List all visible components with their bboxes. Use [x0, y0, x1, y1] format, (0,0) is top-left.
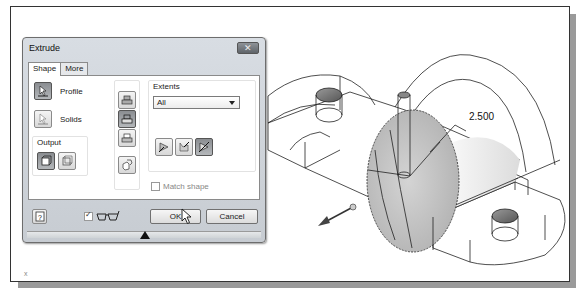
help-button[interactable]: ?: [32, 209, 47, 224]
cancel-button[interactable]: Cancel: [206, 209, 258, 224]
svg-text:?: ?: [38, 213, 42, 220]
expand-triangle-icon[interactable]: [140, 231, 150, 239]
match-shape-label: Match shape: [163, 182, 209, 191]
close-button[interactable]: ✕: [237, 42, 259, 54]
surface-icon: [61, 155, 73, 167]
tab-shape[interactable]: Shape: [28, 62, 61, 76]
match-shape-checkbox[interactable]: [151, 182, 160, 191]
close-icon: ✕: [244, 43, 252, 53]
glasses-icon: [96, 210, 120, 222]
cut-button[interactable]: [118, 110, 136, 128]
intersect-icon: [121, 132, 133, 144]
tab-bar: Shape More: [28, 62, 87, 75]
direction-2-icon: [178, 141, 190, 153]
extrude-direction-arrow: [318, 204, 356, 226]
intersect-button[interactable]: [118, 129, 136, 147]
extents-selected-value: All: [157, 98, 166, 107]
new-solid-button[interactable]: [118, 156, 136, 174]
symmetric-icon: [198, 141, 210, 153]
dimension-value[interactable]: 2.500: [469, 111, 494, 122]
symmetric-button[interactable]: [195, 138, 213, 156]
direction-1-button[interactable]: [155, 138, 173, 156]
new-solid-icon: [121, 159, 133, 171]
extents-group: [148, 80, 256, 172]
direction-1-icon: [158, 141, 170, 153]
direction-2-button[interactable]: [175, 138, 193, 156]
cursor-select-icon: [37, 85, 49, 97]
preview-checkbox[interactable]: [84, 212, 93, 221]
extents-dropdown[interactable]: All: [153, 96, 240, 109]
join-icon: [121, 94, 133, 106]
join-button[interactable]: [118, 91, 136, 109]
tab-more[interactable]: More: [60, 62, 88, 75]
surface-output-button[interactable]: [58, 152, 76, 170]
chevron-down-icon: [229, 101, 235, 105]
profile-selector-button[interactable]: [34, 82, 52, 100]
solid-output-button[interactable]: [37, 152, 55, 170]
solid-icon: [40, 155, 52, 167]
ok-button[interactable]: OK: [150, 209, 201, 224]
mouse-cursor-icon: [181, 208, 193, 225]
extents-label: Extents: [153, 82, 180, 91]
solids-label: Solids: [60, 115, 82, 124]
axis-indicator: x: [24, 270, 28, 277]
solids-selector-button[interactable]: [34, 110, 52, 128]
cut-icon: [121, 113, 133, 125]
help-icon: ?: [34, 211, 46, 223]
dialog-footer: ? OK Cancel: [23, 204, 265, 232]
shape-panel: Profile Solids Output Extents: [28, 75, 260, 200]
dialog-title: Extrude: [29, 43, 60, 53]
profile-label: Profile: [60, 87, 83, 96]
output-label: Output: [37, 138, 61, 147]
cursor-select-icon: [37, 113, 49, 125]
extrude-dialog: Extrude ✕ Shape More Profile Solids Outp…: [22, 37, 266, 243]
